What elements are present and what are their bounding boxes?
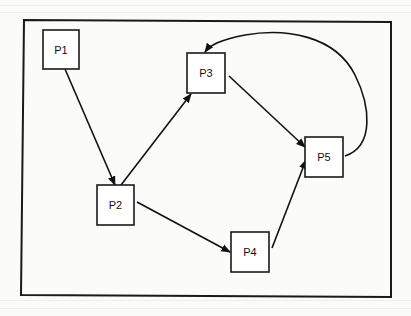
edge-p2-to-p4: [137, 202, 230, 252]
node-label: P5: [317, 151, 330, 163]
node-p5: P5: [305, 137, 343, 177]
node-label: P1: [54, 44, 67, 56]
node-label: P4: [243, 246, 256, 258]
node-p1: P1: [43, 30, 79, 69]
edge-p1-to-p2: [65, 69, 115, 185]
node-p3: P3: [187, 53, 225, 93]
process-graph-diagram: P1P2P3P4P5: [0, 0, 411, 316]
nodes-group: P1P2P3P4P5: [43, 30, 343, 272]
node-label: P2: [109, 199, 122, 211]
node-p4: P4: [231, 232, 269, 272]
edge-p4-to-p5: [272, 160, 306, 248]
node-p2: P2: [97, 185, 134, 225]
edge-p2-to-p3: [121, 94, 191, 185]
edge-p3-to-p5: [229, 76, 305, 147]
node-label: P3: [199, 67, 212, 79]
